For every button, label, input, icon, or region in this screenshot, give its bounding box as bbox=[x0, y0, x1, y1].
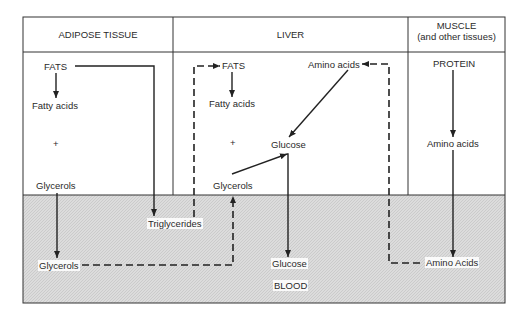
blood-amino-acids: Amino Acids bbox=[425, 257, 479, 268]
adipose-fatty-acids: Fatty acids bbox=[32, 100, 78, 111]
adipose-plus: + bbox=[53, 138, 59, 149]
adipose-fats: FATS bbox=[44, 61, 67, 72]
dashed-triglycerides-liverfats bbox=[194, 66, 220, 217]
blood-triglycerides: Triglycerides bbox=[147, 218, 203, 229]
arrow-aminoacids-glucose bbox=[289, 70, 348, 137]
liver-plus: + bbox=[230, 137, 236, 148]
header-adipose: ADIPOSE TISSUE bbox=[23, 29, 173, 40]
blood-glucose: Glucose bbox=[271, 258, 308, 269]
header-liver: LIVER bbox=[173, 29, 408, 40]
liver-fatty-acids: Fatty acids bbox=[209, 98, 255, 109]
blood-region bbox=[23, 195, 505, 303]
liver-fats: FATS bbox=[222, 60, 245, 71]
arrow-glycerols-glucose bbox=[232, 154, 287, 174]
liver-glucose: Glucose bbox=[271, 139, 306, 150]
arrow-fats-triglycerides bbox=[75, 66, 154, 216]
muscle-amino-acids: Amino acids bbox=[427, 138, 479, 149]
liver-amino-acids: Amino acids bbox=[308, 59, 360, 70]
blood-glycerols: Glycerols bbox=[38, 260, 80, 271]
blood-label: BLOOD bbox=[273, 280, 308, 291]
metabolism-diagram bbox=[0, 0, 516, 319]
header-muscle: MUSCLE bbox=[408, 20, 505, 31]
muscle-protein: PROTEIN bbox=[433, 58, 475, 69]
adipose-glycerols: Glycerols bbox=[36, 180, 76, 191]
header-muscle-sub: (and other tissues) bbox=[408, 31, 505, 42]
liver-glycerols: Glycerols bbox=[213, 180, 253, 191]
